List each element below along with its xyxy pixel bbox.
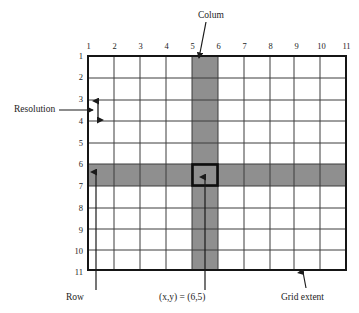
grid-extent-leader-line: [303, 272, 306, 288]
column-leader-line: [199, 22, 206, 58]
raster-grid-figure: 1 2 3 4 5 6 7 8 9 10 11 1 2 3 4 5 6 7 8 …: [0, 0, 359, 313]
grid-graphic: [0, 0, 359, 313]
